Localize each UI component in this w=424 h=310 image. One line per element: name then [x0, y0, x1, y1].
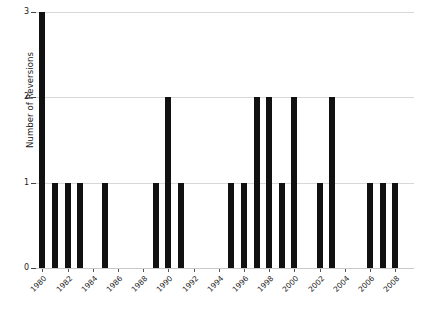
x-tick-mark	[294, 269, 295, 272]
y-axis-ticks: 0123	[0, 12, 36, 268]
bar	[178, 183, 184, 268]
x-tick-mark	[93, 269, 94, 272]
bar	[241, 183, 247, 268]
bar	[279, 183, 285, 268]
bar	[392, 183, 398, 268]
x-tick-mark	[194, 269, 195, 272]
bar	[77, 183, 83, 268]
bar	[102, 183, 108, 268]
bar	[380, 183, 386, 268]
x-tick-mark	[143, 269, 144, 272]
gridline-y-2	[36, 97, 414, 98]
x-tick-mark	[42, 269, 43, 272]
x-tick-mark	[68, 269, 69, 272]
y-tick-label: 3	[24, 7, 29, 16]
y-tick-label: 1	[24, 178, 29, 187]
x-tick-mark	[244, 269, 245, 272]
bar	[317, 183, 323, 268]
x-tick-mark	[395, 269, 396, 272]
x-tick-mark	[320, 269, 321, 272]
bar	[254, 97, 260, 268]
y-tick-label: 0	[24, 263, 29, 272]
bar	[65, 183, 71, 268]
bar	[367, 183, 373, 268]
x-tick-mark	[269, 269, 270, 272]
x-axis-ticks: 1980198219841986198819901992199419961998…	[36, 269, 414, 310]
gridline-y-1	[36, 183, 414, 184]
plot-area	[36, 12, 414, 268]
x-tick-mark	[118, 269, 119, 272]
bar	[329, 97, 335, 268]
bar	[165, 97, 171, 268]
bar	[266, 97, 272, 268]
x-tick-mark	[370, 269, 371, 272]
y-tick-label: 2	[24, 92, 29, 101]
reversions-bar-chart: Number of Reversions 0123 19801982198419…	[0, 0, 424, 310]
bar	[228, 183, 234, 268]
bar	[291, 97, 297, 268]
bar	[52, 183, 58, 268]
x-tick-mark	[168, 269, 169, 272]
x-tick-mark	[345, 269, 346, 272]
bar	[39, 12, 45, 268]
gridline-y-3	[36, 12, 414, 13]
x-tick-mark	[219, 269, 220, 272]
bar	[153, 183, 159, 268]
